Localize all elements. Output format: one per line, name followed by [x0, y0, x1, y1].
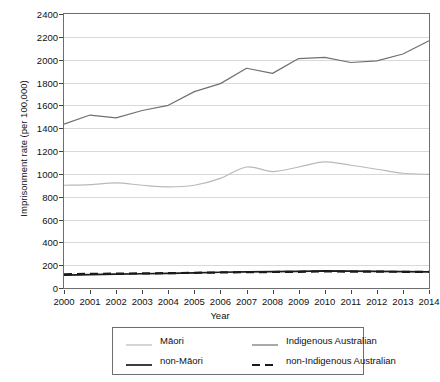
x-tick-label: 2007	[236, 296, 257, 307]
x-tick-mark	[273, 290, 274, 294]
y-tick-label: 1400	[37, 123, 58, 134]
x-tick-label: 2002	[106, 296, 127, 307]
x-tick-mark	[64, 290, 65, 294]
x-tick-label: 2008	[262, 296, 283, 307]
x-tick-label: 2006	[210, 296, 231, 307]
plot-area	[63, 13, 430, 289]
legend-label: Māori	[160, 335, 184, 346]
legend-item: Indigenous Australian	[251, 335, 377, 346]
y-tick-label: 200	[42, 260, 58, 271]
x-tick-mark	[90, 290, 91, 294]
y-tick-label: 0	[53, 283, 58, 294]
y-tick-label: 400	[42, 237, 58, 248]
x-tick-label: 2009	[288, 296, 309, 307]
legend-label: non-Indigenous Australian	[286, 355, 396, 366]
y-tick-label: 800	[42, 191, 58, 202]
legend-item: non-Indigenous Australian	[251, 355, 396, 366]
legend-item: non-Māori	[125, 355, 203, 366]
x-tick-label: 2005	[184, 296, 205, 307]
chart-legend: MāoriIndigenous Australiannon-Māorinon-I…	[112, 327, 364, 375]
x-tick-label: 2011	[341, 296, 361, 307]
x-tick-label: 2010	[314, 296, 335, 307]
x-tick-mark	[377, 290, 378, 294]
x-axis-title: Year	[0, 310, 440, 321]
x-tick-mark	[220, 290, 221, 294]
x-tick-mark	[142, 290, 143, 294]
x-tick-label: 2003	[132, 296, 153, 307]
legend-swatch-icon	[251, 356, 279, 366]
x-tick-mark	[116, 290, 117, 294]
x-tick-mark	[299, 290, 300, 294]
y-tick-label: 1200	[37, 146, 58, 157]
x-tick-mark	[325, 290, 326, 294]
y-tick-label: 1600	[37, 100, 58, 111]
x-tick-mark	[168, 290, 169, 294]
x-tick-mark	[429, 290, 430, 294]
x-tick-label: 2000	[53, 296, 74, 307]
x-tick-label: 2013	[392, 296, 413, 307]
legend-swatch-icon	[251, 336, 279, 346]
x-tick-label: 2014	[418, 296, 439, 307]
chart-container: Imprisonment rate (per 100,000) 02004006…	[0, 0, 440, 382]
x-tick-mark	[351, 290, 352, 294]
legend-swatch-icon	[125, 356, 153, 366]
y-tick-label: 600	[42, 214, 58, 225]
data-series-layer	[64, 14, 429, 288]
x-tick-mark	[194, 290, 195, 294]
y-tick-label: 1000	[37, 168, 58, 179]
y-tick-label: 2000	[37, 54, 58, 65]
x-tick-label: 2012	[366, 296, 387, 307]
series-line-1	[64, 162, 429, 187]
x-tick-mark	[403, 290, 404, 294]
y-tick-label: 2400	[37, 9, 58, 20]
x-tick-label: 2004	[158, 296, 179, 307]
y-axis-title: Imprisonment rate (per 100,000)	[18, 29, 29, 269]
legend-swatch-icon	[125, 336, 153, 346]
x-tick-mark	[247, 290, 248, 294]
y-tick-label: 1800	[37, 77, 58, 88]
series-line-2	[64, 41, 429, 124]
legend-label: non-Māori	[160, 355, 203, 366]
x-tick-label: 2001	[79, 296, 100, 307]
legend-label: Indigenous Australian	[286, 335, 377, 346]
y-tick-label: 2200	[37, 31, 58, 42]
legend-item: Māori	[125, 335, 184, 346]
